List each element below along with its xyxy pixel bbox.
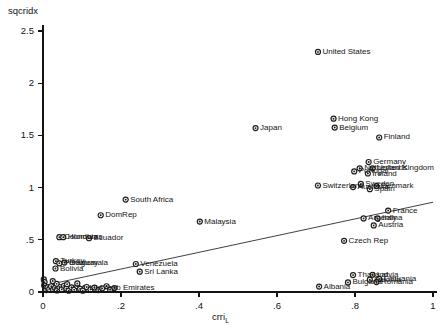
data-point-marker (316, 283, 322, 289)
data-point-label: Spain (374, 185, 394, 193)
x-tick-label: .8 (335, 301, 375, 311)
data-point-marker (64, 281, 70, 287)
y-tick-label: .5 (0, 235, 34, 245)
x-axis-title-subscript: L (225, 317, 229, 324)
data-point-marker (315, 49, 321, 55)
y-tick-label: 2.5 (0, 26, 34, 36)
data-point-marker (371, 222, 377, 228)
data-point-marker (330, 116, 336, 122)
data-point-label: Utd Arab Emirates (90, 284, 155, 292)
data-point-label: Finland (384, 133, 410, 141)
data-point-label: Bolivia (60, 265, 84, 273)
data-point-label: Ireland (372, 170, 396, 178)
data-point-marker (74, 280, 80, 286)
data-point-label: DomRep (105, 211, 137, 219)
y-tick-label: 1.5 (0, 130, 34, 140)
x-tick-label: .6 (257, 301, 297, 311)
data-point-label: Austria (378, 221, 403, 229)
data-point-marker (332, 124, 338, 130)
data-point-label: Switzerland (322, 182, 363, 190)
y-tick-label: 1 (0, 183, 34, 193)
data-point-label: Japan (260, 124, 282, 132)
data-point-marker (123, 197, 129, 203)
data-point-label: Albania (324, 283, 351, 291)
data-point-marker (50, 278, 56, 284)
data-point-label: Romania (381, 278, 413, 286)
y-tick-label: 2 (0, 78, 34, 88)
data-point-label: Czech Rep (349, 237, 389, 245)
data-point-marker (133, 261, 139, 267)
data-point-label: South Africa (130, 196, 173, 204)
data-point-marker (315, 182, 321, 188)
data-point-label: Bulgaria (352, 278, 381, 286)
x-axis-title-main: crri (212, 311, 225, 322)
data-point-label: Ecuador (94, 234, 124, 242)
data-point-marker (98, 212, 104, 218)
y-tick-label: 0 (0, 287, 34, 297)
x-tick-label: .2 (101, 301, 141, 311)
data-point-marker (52, 265, 58, 271)
data-point-marker (137, 269, 143, 275)
data-point-label: Belgium (339, 124, 368, 132)
x-axis-title: crriL (0, 312, 441, 324)
data-point-marker (252, 125, 258, 131)
data-point-marker (351, 168, 357, 174)
data-point-marker (197, 218, 203, 224)
y-axis-title: sqcridx (8, 6, 38, 16)
data-point-label: Hong Kong (338, 115, 378, 123)
data-point-label: United States (322, 48, 370, 56)
data-point-marker (376, 134, 382, 140)
x-tick-label: 0 (23, 301, 63, 311)
data-point-label: Malaysia (204, 218, 236, 226)
data-point-marker (360, 215, 366, 221)
data-point-label: Sri Lanka (144, 268, 178, 276)
scatter-plot-figure: 0.511.522.5 0.2.4.6.81 United StatesHong… (0, 0, 441, 336)
x-tick-label: 1 (413, 301, 441, 311)
x-tick-label: .4 (179, 301, 219, 311)
data-point-marker (341, 238, 347, 244)
